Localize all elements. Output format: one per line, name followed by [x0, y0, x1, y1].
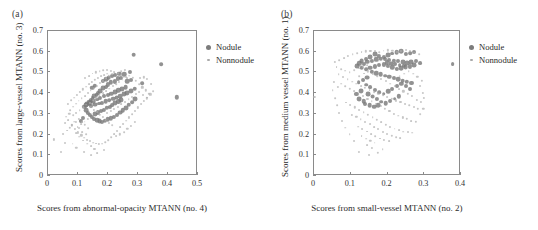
nonnodule-point — [376, 76, 378, 78]
legend-a: Nodule Nonnodule — [206, 41, 254, 67]
nonnodule-point — [403, 131, 405, 133]
nonnodule-point — [407, 131, 409, 133]
nonnodule-point — [110, 136, 112, 138]
nonnodule-point — [371, 101, 373, 103]
nonnodule-point — [103, 74, 105, 76]
nonnodule-point — [419, 113, 421, 115]
nodule-point — [132, 97, 137, 102]
nonnodule-point — [115, 83, 117, 85]
nodule-point — [418, 61, 422, 65]
nonnodule-point — [106, 69, 108, 71]
nonnodule-point — [351, 81, 353, 83]
nonnodule-point — [96, 152, 98, 154]
nonnodule-point — [405, 49, 407, 51]
nonnodule-point — [360, 85, 362, 87]
nonnodule-point — [398, 129, 400, 131]
nonnodule-point — [140, 103, 142, 105]
nonnodule-point — [84, 77, 86, 79]
nonnodule-point — [400, 137, 402, 139]
y-tickmark — [47, 30, 50, 31]
nonnodule-point — [88, 75, 90, 77]
nodule-point — [388, 99, 392, 103]
panel-a: (a) 00.10.20.30.40.500.10.20.30.40.50.60… — [0, 0, 269, 230]
nonnodule-point — [123, 131, 125, 133]
nonnodule-point — [85, 104, 87, 106]
nonnodule-point — [353, 140, 355, 142]
nonnodule-point — [72, 106, 74, 108]
nonnodule-point — [361, 135, 363, 137]
y-axis-title-a: Scores from large-vessel MTANN (no. 3) — [14, 22, 24, 172]
x-tickmark — [387, 172, 388, 175]
nonnodule-point — [332, 90, 334, 92]
x-tick-label: 0.3 — [418, 179, 428, 188]
nonnodule-point — [86, 143, 88, 145]
nonnodule-point — [102, 92, 104, 94]
nonnodule-point — [367, 64, 369, 66]
y-tick-label: 0.7 — [291, 26, 309, 35]
x-axis-title-a: Scores from abnormal-opacity MTANN (no. … — [37, 203, 207, 213]
nonnodule-point — [363, 112, 365, 114]
nonnodule-point — [358, 109, 360, 111]
x-tickmark — [423, 172, 424, 175]
nonnodule-point — [75, 112, 77, 114]
nonnodule-point — [356, 52, 358, 54]
nonnodule-point — [120, 103, 122, 105]
nonnodule-point — [81, 121, 83, 123]
nonnodule-point — [379, 138, 381, 140]
nodule-point — [159, 62, 163, 66]
nonnodule-point — [366, 144, 368, 146]
nonnodule-point — [139, 78, 141, 80]
y-tick-label: 0.5 — [291, 67, 309, 76]
nodule-point — [132, 86, 137, 91]
nonnodule-point — [342, 76, 344, 78]
nonnodule-point — [375, 103, 377, 105]
nonnodule-point — [398, 88, 400, 90]
nonnodule-point — [352, 54, 354, 56]
nonnodule-point — [419, 85, 421, 87]
nonnodule-point — [370, 133, 372, 135]
nonnodule-point — [361, 51, 363, 53]
nonnodule-point — [83, 137, 85, 139]
nonnodule-point — [87, 92, 89, 94]
nodule-point — [357, 96, 362, 101]
nonnodule-point — [82, 140, 84, 142]
nodule-marker-icon — [469, 45, 474, 50]
nonnodule-point — [350, 104, 352, 106]
nonnodule-point — [349, 134, 351, 136]
nonnodule-point — [90, 154, 92, 156]
nodule-point — [357, 80, 361, 84]
nodule-point — [412, 63, 417, 68]
nonnodule-point — [112, 85, 114, 87]
nonnodule-point — [90, 145, 92, 147]
nonnodule-point — [138, 83, 140, 85]
x-tickmark — [460, 172, 461, 175]
nonnodule-point — [418, 54, 420, 56]
nonnodule-point — [340, 68, 342, 70]
nonnodule-point — [363, 73, 365, 75]
nonnodule-point — [356, 83, 358, 85]
x-tick-label: 0.1 — [345, 179, 355, 188]
y-tick-label: 0.5 — [25, 67, 43, 76]
nonnodule-point — [113, 71, 115, 73]
y-tick-label: 0.6 — [291, 46, 309, 55]
nonnodule-point — [360, 119, 362, 121]
nonnodule-point — [122, 79, 124, 81]
panel-a-label: (a) — [12, 9, 23, 19]
nonnodule-point — [62, 133, 64, 135]
nonnodule-point — [107, 139, 109, 141]
nonnodule-point — [82, 106, 84, 108]
y-tick-label: 0.3 — [25, 108, 43, 117]
nonnodule-point — [121, 71, 123, 73]
x-tick-label: 0.4 — [162, 179, 172, 188]
nodule-point — [408, 87, 412, 91]
nonnodule-point — [408, 70, 410, 72]
nonnodule-point — [96, 111, 98, 113]
y-tickmark — [313, 92, 316, 93]
nonnodule-point — [92, 99, 94, 101]
nonnodule-marker-icon — [470, 59, 472, 61]
y-tickmark — [47, 92, 50, 93]
nonnodule-point — [106, 73, 108, 75]
x-tickmark — [197, 172, 198, 175]
nonnodule-point — [103, 69, 105, 71]
nonnodule-point — [347, 78, 349, 80]
